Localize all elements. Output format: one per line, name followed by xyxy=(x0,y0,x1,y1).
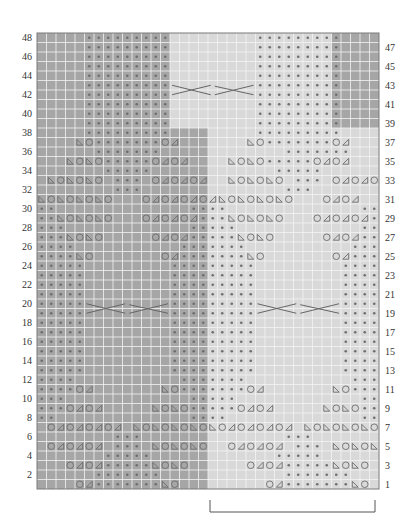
purl-dot-icon xyxy=(183,302,186,305)
purl-dot-icon xyxy=(287,141,290,144)
purl-dot-icon xyxy=(306,93,309,96)
purl-dot-icon xyxy=(50,407,53,410)
purl-dot-icon xyxy=(135,464,138,467)
purl-dot-icon xyxy=(126,454,129,457)
purl-dot-icon xyxy=(145,169,148,172)
purl-dot-icon xyxy=(306,36,309,39)
purl-dot-icon xyxy=(183,350,186,353)
purl-dot-icon xyxy=(325,103,328,106)
purl-dot-icon xyxy=(40,264,43,267)
purl-dot-icon xyxy=(325,473,328,476)
purl-dot-icon xyxy=(363,350,366,353)
purl-dot-icon xyxy=(249,369,252,372)
purl-dot-icon xyxy=(116,103,119,106)
purl-dot-icon xyxy=(354,255,357,258)
purl-dot-icon xyxy=(287,464,290,467)
purl-dot-icon xyxy=(164,122,167,125)
purl-dot-icon xyxy=(202,416,205,419)
purl-dot-icon xyxy=(145,93,148,96)
purl-dot-icon xyxy=(183,369,186,372)
purl-dot-icon xyxy=(116,160,119,163)
purl-dot-icon xyxy=(297,84,300,87)
purl-dot-icon xyxy=(126,74,129,77)
purl-dot-icon xyxy=(40,207,43,210)
purl-dot-icon xyxy=(363,255,366,258)
purl-dot-icon xyxy=(50,388,53,391)
purl-dot-icon xyxy=(135,169,138,172)
row-label-left: 10 xyxy=(22,393,32,404)
purl-dot-icon xyxy=(230,302,233,305)
purl-dot-icon xyxy=(202,369,205,372)
purl-dot-icon xyxy=(59,350,62,353)
purl-dot-icon xyxy=(69,321,72,324)
purl-dot-icon xyxy=(126,445,129,448)
purl-dot-icon xyxy=(40,388,43,391)
purl-dot-icon xyxy=(325,112,328,115)
purl-dot-icon xyxy=(126,122,129,125)
purl-dot-icon xyxy=(373,236,376,239)
purl-dot-icon xyxy=(316,103,319,106)
purl-dot-icon xyxy=(287,160,290,163)
purl-dot-icon xyxy=(363,302,366,305)
purl-dot-icon xyxy=(363,321,366,324)
purl-dot-icon xyxy=(259,55,262,58)
row-label-left: 26 xyxy=(22,241,32,252)
purl-dot-icon xyxy=(316,112,319,115)
row-label-right: 39 xyxy=(385,118,395,129)
purl-dot-icon xyxy=(59,378,62,381)
purl-dot-icon xyxy=(287,103,290,106)
purl-dot-icon xyxy=(240,312,243,315)
purl-dot-icon xyxy=(97,103,100,106)
purl-dot-icon xyxy=(240,388,243,391)
purl-dot-icon xyxy=(202,407,205,410)
row-label-right: 15 xyxy=(385,346,395,357)
purl-dot-icon xyxy=(211,245,214,248)
purl-dot-icon xyxy=(278,55,281,58)
purl-dot-icon xyxy=(363,293,366,296)
purl-dot-icon xyxy=(107,483,110,486)
purl-dot-icon xyxy=(221,274,224,277)
purl-dot-icon xyxy=(59,312,62,315)
purl-dot-icon xyxy=(126,55,129,58)
purl-dot-icon xyxy=(249,274,252,277)
purl-dot-icon xyxy=(268,93,271,96)
purl-dot-icon xyxy=(97,122,100,125)
purl-dot-icon xyxy=(107,65,110,68)
purl-dot-icon xyxy=(59,264,62,267)
purl-dot-icon xyxy=(230,264,233,267)
purl-dot-icon xyxy=(135,84,138,87)
purl-dot-icon xyxy=(97,36,100,39)
purl-dot-icon xyxy=(230,321,233,324)
purl-dot-icon xyxy=(230,359,233,362)
purl-dot-icon xyxy=(363,378,366,381)
purl-dot-icon xyxy=(50,340,53,343)
purl-dot-icon xyxy=(107,122,110,125)
purl-dot-icon xyxy=(306,103,309,106)
purl-dot-icon xyxy=(287,122,290,125)
purl-dot-icon xyxy=(59,340,62,343)
row-label-right: 3 xyxy=(385,460,390,471)
purl-dot-icon xyxy=(59,369,62,372)
purl-dot-icon xyxy=(97,84,100,87)
purl-dot-icon xyxy=(335,122,338,125)
purl-dot-icon xyxy=(297,169,300,172)
purl-dot-icon xyxy=(69,359,72,362)
purl-dot-icon xyxy=(126,93,129,96)
purl-dot-icon xyxy=(69,245,72,248)
purl-dot-icon xyxy=(97,93,100,96)
purl-dot-icon xyxy=(97,131,100,134)
row-label-left: 18 xyxy=(22,317,32,328)
purl-dot-icon xyxy=(173,340,176,343)
purl-dot-icon xyxy=(297,55,300,58)
purl-dot-icon xyxy=(306,169,309,172)
purl-dot-icon xyxy=(306,46,309,49)
purl-dot-icon xyxy=(192,236,195,239)
purl-dot-icon xyxy=(287,84,290,87)
purl-dot-icon xyxy=(192,302,195,305)
purl-dot-icon xyxy=(135,55,138,58)
purl-dot-icon xyxy=(145,454,148,457)
purl-dot-icon xyxy=(59,407,62,410)
purl-dot-icon xyxy=(50,293,53,296)
purl-dot-icon xyxy=(97,150,100,153)
purl-dot-icon xyxy=(88,112,91,115)
